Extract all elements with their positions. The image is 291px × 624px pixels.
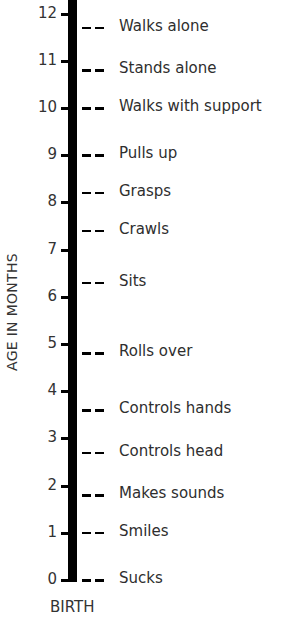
y-tick-mark <box>61 532 69 535</box>
y-tick-label: 9 <box>7 147 57 162</box>
milestone-label: Smiles <box>119 524 169 539</box>
y-tick-label: 11 <box>7 53 57 68</box>
milestone-dash <box>95 409 104 412</box>
y-tick-label: 7 <box>7 242 57 257</box>
milestone-label: Pulls up <box>119 146 177 161</box>
milestone-label: Rolls over <box>119 344 192 359</box>
milestone-dash <box>82 452 91 455</box>
milestone-dash <box>82 579 91 582</box>
milestone-label: Makes sounds <box>119 486 224 501</box>
milestone-label: Sucks <box>119 571 163 586</box>
milestone-dash <box>82 27 91 30</box>
milestone-label: Walks alone <box>119 19 209 34</box>
milestone-label: Grasps <box>119 184 171 199</box>
y-tick-mark <box>61 60 69 63</box>
y-tick-mark <box>61 485 69 488</box>
milestone-dash <box>95 494 104 497</box>
milestone-dash <box>95 579 104 582</box>
y-tick-mark <box>61 437 69 440</box>
y-tick-label: 6 <box>7 289 57 304</box>
milestone-dash <box>82 69 91 72</box>
milestone-dash <box>82 352 91 355</box>
y-tick-label: 4 <box>7 383 57 398</box>
milestone-label: Controls hands <box>119 401 231 416</box>
milestone-dash <box>95 154 104 157</box>
milestone-dash <box>82 192 91 195</box>
milestone-label: Controls head <box>119 444 223 459</box>
y-tick-label: 8 <box>7 194 57 209</box>
milestone-dash <box>95 452 104 455</box>
milestone-dash <box>95 192 104 195</box>
milestone-dash <box>82 107 91 110</box>
y-tick-mark <box>61 107 69 110</box>
milestone-chart: AGE IN MONTHS 0123456789101112 SucksSmil… <box>0 0 291 624</box>
milestone-dash <box>82 494 91 497</box>
milestone-dash <box>95 230 104 233</box>
y-tick-mark <box>61 343 69 346</box>
y-tick-mark <box>61 390 69 393</box>
y-tick-mark <box>61 154 69 157</box>
milestone-dash <box>82 532 91 535</box>
milestone-label: Crawls <box>119 222 169 237</box>
milestone-dash <box>82 282 91 285</box>
y-tick-label: 2 <box>7 478 57 493</box>
milestone-dash <box>95 27 104 30</box>
milestone-label: Sits <box>119 274 146 289</box>
y-tick-label: 10 <box>7 100 57 115</box>
y-tick-mark <box>61 201 69 204</box>
y-tick-mark <box>61 296 69 299</box>
x-axis-label-birth: BIRTH <box>50 598 95 616</box>
milestone-dash <box>95 532 104 535</box>
milestone-dash <box>82 230 91 233</box>
y-tick-label: 3 <box>7 430 57 445</box>
y-axis-label: AGE IN MONTHS <box>4 253 20 371</box>
y-tick-mark <box>61 13 69 16</box>
y-tick-mark <box>61 579 69 582</box>
milestone-dash <box>95 352 104 355</box>
y-tick-label: 5 <box>7 336 57 351</box>
milestone-dash <box>95 107 104 110</box>
y-tick-mark <box>61 249 69 252</box>
milestone-dash <box>82 409 91 412</box>
y-tick-label: 0 <box>7 572 57 587</box>
milestone-label: Walks with support <box>119 99 262 114</box>
y-tick-label: 1 <box>7 525 57 540</box>
milestone-dash <box>95 282 104 285</box>
timeline-axis-bar <box>68 0 77 582</box>
milestone-dash <box>82 154 91 157</box>
milestone-label: Stands alone <box>119 61 216 76</box>
y-tick-label: 12 <box>7 6 57 21</box>
milestone-dash <box>95 69 104 72</box>
